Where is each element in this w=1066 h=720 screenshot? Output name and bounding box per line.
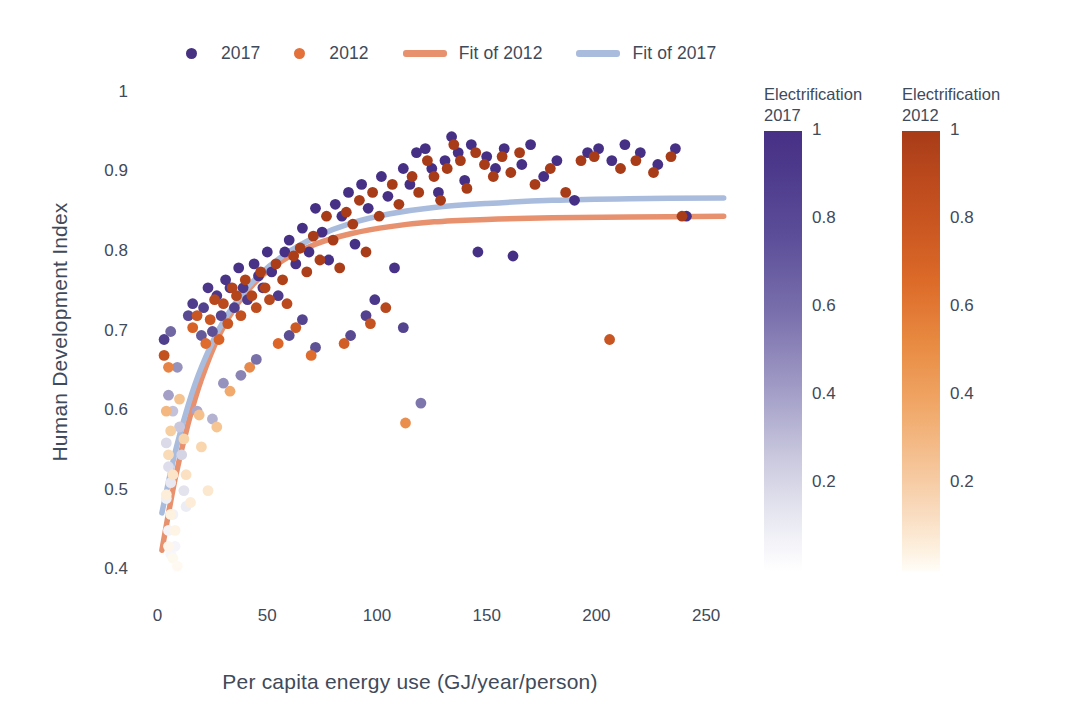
- scatter-point-2012: [648, 167, 659, 178]
- scatter-point-2012: [448, 139, 459, 150]
- scatter-point-2017: [508, 251, 519, 262]
- scatter-point-2012: [159, 350, 170, 361]
- scatter-point-2012: [462, 183, 473, 194]
- x-axis-title: Per capita energy use (GJ/year/person): [120, 670, 700, 694]
- scatter-point-2012: [165, 509, 176, 520]
- scatter-point-2012: [181, 469, 192, 480]
- colorbar-tick-label: 0.6: [950, 296, 974, 316]
- scatter-point-2017: [262, 247, 273, 258]
- fit-line-fit-of-2012: [162, 216, 724, 550]
- scatter-point-2012: [479, 159, 490, 170]
- scatter-point-2017: [343, 187, 354, 198]
- scatter-point-2012: [488, 171, 499, 182]
- y-tick-label: 0.7: [68, 321, 128, 341]
- scatter-point-2012: [222, 318, 233, 329]
- x-tick-label: 0: [128, 606, 188, 626]
- scatter-point-2012: [273, 338, 284, 349]
- scatter-point-2012: [161, 406, 172, 417]
- scatter-point-2012: [277, 274, 288, 285]
- colorbar-tick-label: 0.8: [950, 208, 974, 228]
- scatter-point-2017: [389, 263, 400, 274]
- legend-item-2017[interactable]: 2017: [186, 43, 260, 64]
- chart-root: 2017 2012 Fit of 2012 Fit of 2017 Human …: [0, 0, 1066, 720]
- scatter-point-2012: [247, 290, 258, 301]
- plot-area: [140, 85, 750, 590]
- scatter-point-2012: [185, 497, 196, 508]
- scatter-point-2012: [400, 418, 411, 429]
- scatter-point-2012: [172, 561, 183, 572]
- scatter-point-2012: [589, 151, 600, 162]
- scatter-point-2012: [214, 334, 225, 345]
- scatter-point-2012: [387, 179, 398, 190]
- scatter-point-2012: [422, 155, 433, 166]
- y-tick-label: 1: [68, 82, 128, 102]
- scatter-point-2012: [505, 167, 516, 178]
- scatter-point-2017: [176, 449, 187, 460]
- scatter-point-2012: [470, 147, 481, 158]
- scatter-point-2012: [347, 219, 358, 230]
- y-tick-label: 0.5: [68, 480, 128, 500]
- legend-label-fit-2017: Fit of 2017: [632, 43, 716, 64]
- scatter-point-2012: [236, 310, 247, 321]
- legend-marker-dot-2012: [294, 48, 305, 59]
- scatter-point-2012: [321, 211, 332, 222]
- scatter-point-2012: [163, 541, 174, 552]
- scatter-point-2012: [295, 243, 306, 254]
- scatter-point-2012: [666, 151, 677, 162]
- chart-legend: 2017 2012 Fit of 2012 Fit of 2017: [186, 40, 750, 66]
- scatter-point-2012: [339, 338, 350, 349]
- scatter-point-2012: [306, 350, 317, 361]
- scatter-point-2012: [264, 294, 275, 305]
- scatter-point-2017: [525, 139, 536, 150]
- scatter-point-2012: [361, 247, 372, 258]
- scatter-point-2012: [168, 469, 179, 480]
- legend-label-2017: 2017: [221, 43, 260, 64]
- scatter-point-2017: [606, 155, 617, 166]
- colorbar-electrification-2012: Electrification 2012 10.80.60.40.2: [902, 84, 1000, 126]
- scatter-point-2012: [367, 187, 378, 198]
- x-tick-label: 100: [347, 606, 407, 626]
- colorbar-tick-label: 0.4: [950, 384, 974, 404]
- x-tick-label: 50: [237, 606, 297, 626]
- scatter-point-2017: [383, 191, 394, 202]
- x-tick-label: 150: [457, 606, 517, 626]
- scatter-point-2012: [282, 298, 293, 309]
- scatter-point-2012: [196, 442, 207, 453]
- scatter-point-2017: [516, 159, 527, 170]
- scatter-point-2012: [218, 298, 229, 309]
- scatter-point-2017: [179, 485, 190, 496]
- y-tick-label: 0.8: [68, 241, 128, 261]
- scatter-point-2012: [200, 338, 211, 349]
- scatter-point-2017: [350, 239, 361, 250]
- scatter-point-2012: [413, 187, 424, 198]
- colorbar-tick-label: 0.6: [812, 296, 836, 316]
- scatter-point-2017: [163, 390, 174, 401]
- scatter-point-2012: [251, 302, 262, 313]
- scatter-point-2012: [290, 322, 301, 333]
- scatter-point-2012: [407, 171, 418, 182]
- scatter-point-2017: [236, 370, 247, 381]
- scatter-point-2017: [369, 294, 380, 305]
- scatter-point-2017: [473, 247, 484, 258]
- legend-label-fit-2012: Fit of 2012: [459, 43, 543, 64]
- legend-item-fit-2017[interactable]: Fit of 2017: [576, 43, 716, 64]
- scatter-point-2012: [301, 267, 312, 278]
- legend-item-fit-2012[interactable]: Fit of 2012: [403, 43, 543, 64]
- legend-label-2012: 2012: [329, 43, 368, 64]
- scatter-point-2012: [271, 259, 282, 270]
- y-tick-label: 0.6: [68, 400, 128, 420]
- scatter-point-2012: [442, 163, 453, 174]
- scatter-point-2017: [310, 203, 321, 214]
- scatter-point-2012: [260, 282, 271, 293]
- scatter-point-2012: [163, 362, 174, 373]
- scatter-point-2012: [179, 434, 190, 445]
- legend-item-2012[interactable]: 2012: [294, 43, 368, 64]
- scatter-point-2017: [187, 298, 198, 309]
- y-tick-label: 0.4: [68, 559, 128, 579]
- scatter-point-2012: [429, 171, 440, 182]
- scatter-point-2012: [631, 155, 642, 166]
- scatter-point-2012: [315, 255, 326, 266]
- scatter-point-2012: [514, 147, 525, 158]
- scatter-point-2012: [170, 525, 181, 536]
- scatter-point-2012: [576, 155, 587, 166]
